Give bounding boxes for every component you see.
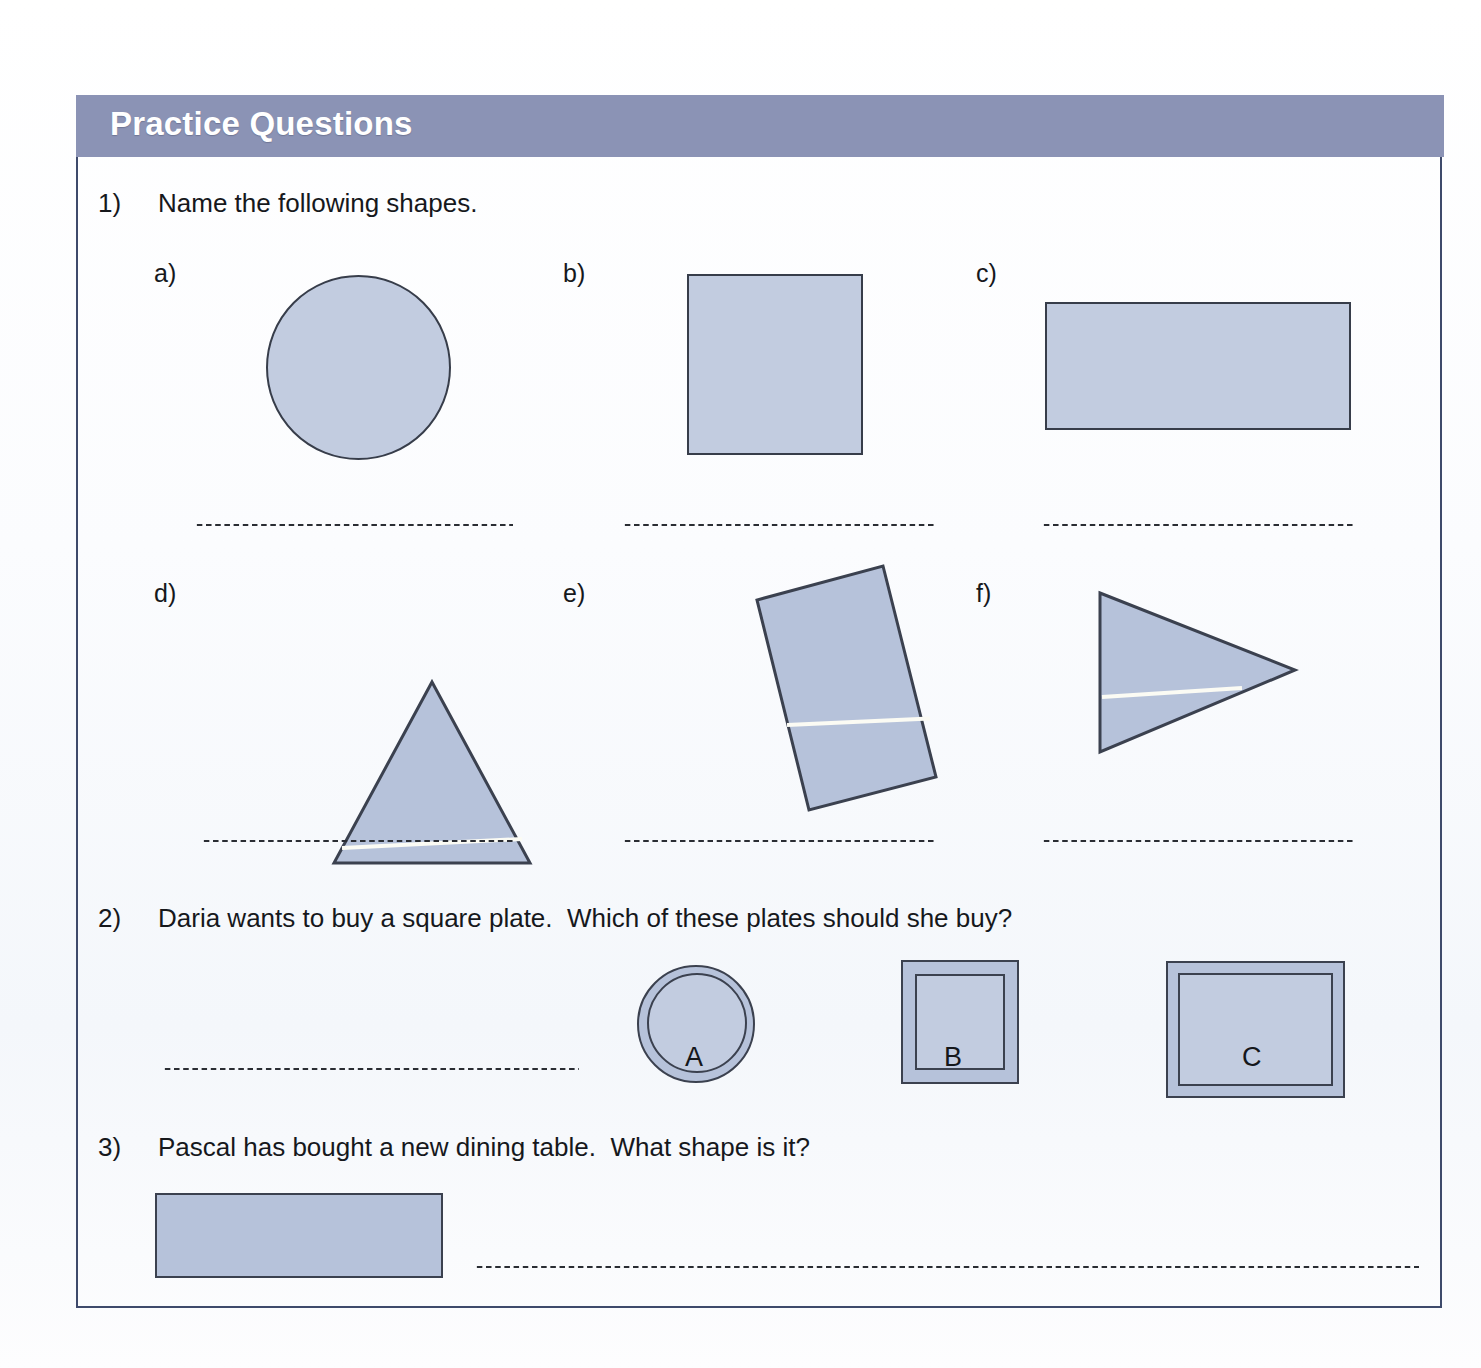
question-2-number: 2): [98, 903, 121, 934]
page-title: Practice Questions: [110, 105, 413, 143]
shape-right-pointing-triangle: [1066, 575, 1366, 875]
question-1-text: Name the following shapes.: [158, 188, 477, 219]
plate-c-label: C: [1242, 1042, 1262, 1073]
part-label-b: b): [563, 259, 585, 288]
answer-line-1f[interactable]: [1042, 839, 1354, 843]
shape-circle: [266, 275, 451, 460]
shape-rectangle: [1045, 302, 1351, 430]
shape-square: [687, 274, 863, 455]
shape-dining-table-rectangle: [155, 1193, 443, 1278]
question-1-number: 1): [98, 188, 121, 219]
shape-rotated-rectangle: [656, 545, 986, 865]
answer-line-3[interactable]: [475, 1265, 1419, 1269]
answer-line-1d[interactable]: [202, 839, 514, 843]
plate-b-label: B: [944, 1042, 962, 1073]
answer-line-1b[interactable]: [623, 523, 935, 527]
question-3-number: 3): [98, 1132, 121, 1163]
question-3-text: Pascal has bought a new dining table. Wh…: [158, 1132, 810, 1163]
answer-line-1a[interactable]: [195, 523, 513, 527]
plate-a-label: A: [685, 1042, 703, 1073]
worksheet-panel: Practice Questions 1) Name the following…: [76, 95, 1444, 1310]
part-label-c: c): [976, 259, 997, 288]
answer-line-1e[interactable]: [623, 839, 935, 843]
part-label-e: e): [563, 579, 585, 608]
answer-line-1c[interactable]: [1042, 523, 1354, 527]
part-label-d: d): [154, 579, 176, 608]
question-2-text: Daria wants to buy a square plate. Which…: [158, 903, 1012, 934]
part-label-a: a): [154, 259, 176, 288]
plate-c-rectangle[interactable]: [1162, 957, 1352, 1102]
part-label-f: f): [976, 579, 991, 608]
answer-line-2[interactable]: [163, 1067, 579, 1071]
shape-triangle: [246, 580, 546, 880]
